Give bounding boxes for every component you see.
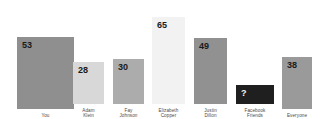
bar-value-elizabeth-copper: 65 — [157, 20, 167, 30]
bar-everyone[interactable]: 38 — [282, 57, 312, 109]
bar-fay-johnson[interactable]: 30 — [113, 59, 144, 104]
bar-group-adam-klein[interactable]: 28 Adam Klein — [73, 0, 104, 119]
category-label-facebook-friends: Facebook Friends — [236, 108, 274, 119]
bar-you[interactable]: 53 — [17, 37, 74, 109]
bar-value-adam-klein: 28 — [78, 65, 88, 75]
bar-value-everyone: 38 — [287, 60, 297, 70]
bar-justin-dillon[interactable]: 49 — [194, 38, 227, 104]
bar-group-justin-dillon[interactable]: 49 Justin Dillon — [194, 0, 227, 119]
bar-adam-klein[interactable]: 28 — [73, 62, 104, 104]
category-label-you: You — [17, 113, 74, 119]
bar-value-fay-johnson: 30 — [118, 62, 128, 72]
bar-chart: 53 You 28 Adam Klein 30 Fay Johnson 65 E… — [0, 0, 321, 119]
bar-facebook-friends[interactable]: ? — [236, 85, 274, 104]
plot-area: 53 You 28 Adam Klein 30 Fay Johnson 65 E… — [0, 0, 321, 119]
bar-elizabeth-copper[interactable]: 65 — [152, 17, 185, 104]
bar-group-everyone[interactable]: 38 Everyone — [282, 0, 312, 119]
category-label-elizabeth-copper: Elizabeth Copper — [152, 108, 185, 119]
category-label-everyone: Everyone — [282, 113, 312, 119]
category-label-justin-dillon: Justin Dillon — [194, 108, 227, 119]
bar-value-facebook-friends: ? — [241, 88, 247, 98]
bar-value-you: 53 — [22, 40, 32, 50]
category-label-adam-klein: Adam Klein — [73, 108, 104, 119]
category-label-fay-johnson: Fay Johnson — [113, 108, 144, 119]
bar-group-facebook-friends[interactable]: ? Facebook Friends — [236, 0, 274, 119]
bar-group-you[interactable]: 53 You — [17, 0, 74, 119]
bar-group-fay-johnson[interactable]: 30 Fay Johnson — [113, 0, 144, 119]
bar-value-justin-dillon: 49 — [199, 41, 209, 51]
bar-group-elizabeth-copper[interactable]: 65 Elizabeth Copper — [152, 0, 185, 119]
